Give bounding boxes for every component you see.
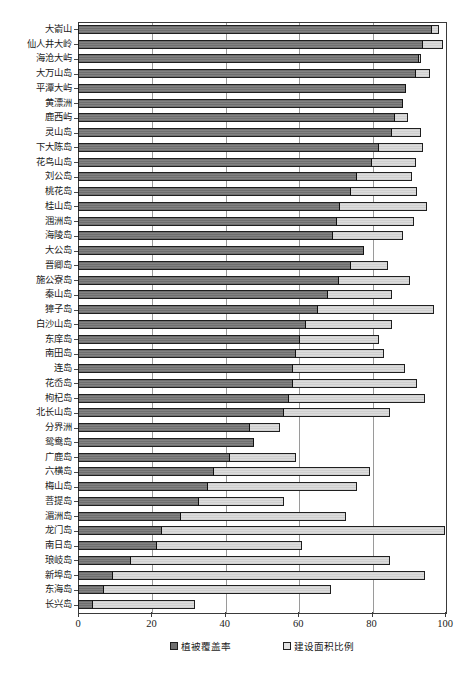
bar-segment-construction [208,482,357,491]
bar-row [78,258,445,273]
bar-row [78,583,445,598]
bar-track [78,467,370,476]
y-axis-label: 大万山岛 [0,68,72,78]
bar-track [78,394,425,403]
bar-segment-construction [293,364,405,373]
bar-segment-construction [131,556,390,565]
y-axis-label: 平潭大屿 [0,83,72,93]
bar-track [78,556,390,565]
y-axis-label: 东庠岛 [0,334,72,344]
y-axis-label: 连岛 [0,363,72,373]
bar-track [78,172,412,181]
bar-segment-construction [181,512,346,521]
bar-segment-vegetation [78,320,306,329]
bar-segment-vegetation [78,231,333,240]
bar-row [78,347,445,362]
bar-row [78,597,445,612]
bar-track [78,349,384,358]
bar-row [78,37,445,52]
bar-segment-vegetation [78,394,289,403]
bar-row [78,391,445,406]
bar-segment-construction [284,408,390,417]
y-axis-label: 菩提岛 [0,496,72,506]
bar-track [78,379,417,388]
bar-row [78,52,445,67]
y-axis-label: 桃花岛 [0,186,72,196]
bar-track [78,202,427,211]
y-axis-label: 长兴岛 [0,599,72,609]
bar-segment-vegetation [78,143,379,152]
bar-track [78,187,417,196]
bar-track [78,158,416,167]
bar-track [78,585,331,594]
x-axis-tick-label: 60 [293,617,304,630]
bar-segment-construction [379,143,423,152]
bar-row [78,406,445,421]
y-axis-label: 獐子岛 [0,304,72,314]
bar-segment-vegetation [78,364,293,373]
bar-segment-construction [300,335,379,344]
bar-segment-vegetation [78,99,403,108]
bar-segment-construction [416,69,431,78]
bar-track [78,25,439,34]
bar-track [78,453,296,462]
y-axis-label: 湄洲岛 [0,511,72,521]
bar-segment-vegetation [78,408,284,417]
bar-segment-construction [423,40,443,49]
bar-segment-construction [340,202,426,211]
bar-segment-vegetation [78,453,230,462]
y-axis-label: 桂山岛 [0,201,72,211]
legend-label-construction: 建设面积比例 [294,639,354,653]
bar-segment-construction [318,305,434,314]
bar-track [78,541,302,550]
bar-track [78,512,346,521]
bar-track [78,84,406,93]
bar-track [78,128,421,137]
y-axis-label: 刘公岛 [0,171,72,181]
bar-segment-construction [339,276,411,285]
bar-row [78,509,445,524]
y-axis-label: 广鹿岛 [0,452,72,462]
bar-segment-construction [104,585,332,594]
bar-segment-vegetation [78,25,432,34]
y-axis-label: 枸杞岛 [0,393,72,403]
bar-segment-construction [113,571,425,580]
bar-track [78,290,392,299]
bar-track [78,99,403,108]
bar-segment-construction [337,217,414,226]
y-axis-labels: 大嵛山仙人井大岭海沧大屿大万山岛平潭大屿黄漂洲鹿西屿灵山岛下大陈岛花鸟山岛刘公岛… [0,22,74,612]
y-axis-label: 灵山岛 [0,127,72,137]
y-axis-label: 琅岐岛 [0,555,72,565]
bar-track [78,276,410,285]
y-axis-label: 秦山岛 [0,289,72,299]
bar-segment-vegetation [78,497,199,506]
x-axis-tick-label: 100 [437,617,453,630]
y-axis-label: 海沧大屿 [0,53,72,63]
y-axis-label: 南田岛 [0,348,72,358]
bar-row [78,111,445,126]
bar-row [78,524,445,539]
bar-row [78,568,445,583]
y-axis-label: 新埠岛 [0,570,72,580]
bar-segment-vegetation [78,276,339,285]
bar-segment-vegetation [78,541,157,550]
legend-swatch-icon [283,642,291,650]
bar-segment-vegetation [78,335,300,344]
y-axis-label: 北长山岛 [0,407,72,417]
bar-track [78,40,443,49]
bar-row [78,420,445,435]
bar-row [78,22,445,37]
bar-segment-vegetation [78,585,104,594]
bar-row [78,170,445,185]
bar-row [78,317,445,332]
bar-segment-vegetation [78,202,340,211]
bar-segment-construction [333,231,403,240]
bar-segment-vegetation [78,158,372,167]
bar-track [78,143,423,152]
bar-row [78,199,445,214]
bar-row [78,155,445,170]
bar-row [78,376,445,391]
bar-track [78,217,414,226]
y-axis-label: 海陵岛 [0,230,72,240]
bar-track [78,364,405,373]
